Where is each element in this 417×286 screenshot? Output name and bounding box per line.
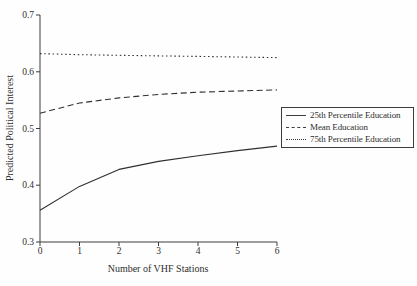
x-axis-title: Number of VHF Stations — [58, 263, 258, 275]
legend-row: 25th Percentile Education — [286, 110, 413, 121]
legend-row: Mean Education — [286, 122, 413, 133]
legend-label: Mean Education — [310, 122, 368, 133]
x-tick-label: 3 — [149, 246, 169, 257]
x-tick-label: 5 — [228, 246, 248, 257]
y-axis-title: Predicted Political Interest — [4, 15, 16, 241]
x-tick-label: 4 — [188, 246, 208, 257]
x-tick-label: 6 — [267, 246, 287, 257]
solid-line-icon — [286, 115, 306, 116]
x-tick-label: 2 — [109, 246, 129, 257]
legend-label: 25th Percentile Education — [310, 110, 400, 121]
dashed-line-icon — [286, 127, 306, 128]
chart: 0.7 0.6 0.5 0.4 0.3 0 1 2 3 4 5 6 Predic… — [0, 0, 417, 286]
legend: 25th Percentile Education Mean Education… — [281, 107, 414, 148]
legend-label: 75th Percentile Education — [310, 134, 400, 145]
x-tick-label: 1 — [70, 246, 90, 257]
dotted-line-icon — [286, 139, 306, 140]
legend-row: 75th Percentile Education — [286, 134, 413, 145]
x-tick-label: 0 — [30, 246, 50, 257]
